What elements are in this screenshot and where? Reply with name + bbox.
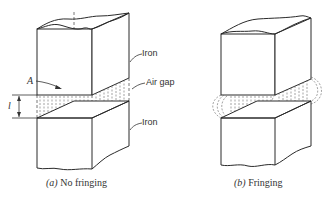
label-area-symbol: A: [27, 75, 33, 86]
magnetic-air-gap-diagram: Iron Air gap Iron A l (a) No fringing (b…: [0, 0, 334, 198]
gap-length-dimension: [12, 95, 37, 118]
panel-a-no-fringing: [12, 12, 145, 170]
label-air-gap: Air gap: [146, 77, 175, 87]
iron-upper-leader: [130, 54, 142, 62]
iron-lower-leader: [130, 123, 142, 130]
caption-text-b: Fringing: [248, 177, 282, 188]
label-iron-lower: Iron: [142, 117, 158, 127]
caption-tag-a: (a): [46, 177, 58, 188]
caption-panel-a: (a) No fringing: [46, 177, 107, 188]
diagram-drawing: [0, 0, 334, 198]
caption-panel-b: (b) Fringing: [234, 177, 283, 188]
air-gap-leader: [132, 83, 145, 89]
lower-iron-block-a: [37, 101, 129, 170]
caption-text-a: No fringing: [60, 177, 107, 188]
caption-tag-b: (b): [234, 177, 246, 188]
panel-b-fringing: [213, 16, 322, 167]
label-iron-upper: Iron: [142, 48, 158, 58]
label-length-symbol: l: [8, 100, 11, 111]
lower-iron-block-b: [221, 101, 311, 166]
upper-iron-block-b: [221, 16, 311, 95]
upper-iron-block-a: [37, 12, 129, 95]
